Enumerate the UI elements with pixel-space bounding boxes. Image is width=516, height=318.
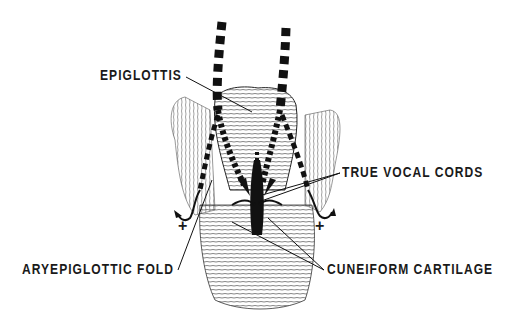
label-cuneiform-cartilage: CUNEIFORM CARTILAGE xyxy=(327,261,493,277)
label-aryepiglottic-fold: ARYEPIGLOTTIC FOLD xyxy=(22,261,174,277)
label-true-vocal-cords: TRUE VOCAL CORDS xyxy=(342,164,483,180)
label-epiglottis: EPIGLOTTIS xyxy=(100,67,182,83)
plus-sign-left: + xyxy=(178,218,187,234)
larynx-diagram: EPIGLOTTIS TRUE VOCAL CORDS ARYEPIGLOTTI… xyxy=(0,0,516,318)
plus-sign-right: + xyxy=(315,218,324,234)
